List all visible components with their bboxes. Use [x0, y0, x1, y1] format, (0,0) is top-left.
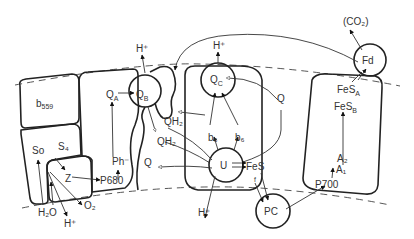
label-fesa: FeSA [337, 84, 360, 97]
label-h-bottom-mid: H⁺ [198, 207, 210, 218]
arrow-ph-to-qa [112, 102, 113, 157]
arrow-b6-right-to-qc [222, 93, 238, 125]
arrow-b6-left-to-qc [210, 93, 215, 125]
label-a1: A₁ [336, 164, 347, 175]
qb-channel [150, 67, 176, 119]
label-h-top-left: H⁺ [136, 43, 148, 54]
oec-box [21, 124, 81, 204]
label-o2: O₂ [84, 200, 96, 211]
label-u: U [220, 160, 227, 171]
arrow-qb-to-h [142, 55, 145, 73]
arrow-fd-cyclic [175, 34, 358, 70]
label-h2o: H₂O [38, 207, 57, 218]
label-b559: b559 [36, 98, 53, 110]
qb-stem [137, 107, 145, 190]
label-q-left: Q [144, 157, 152, 168]
label-s0: So [32, 145, 45, 156]
electron-transport-diagram: (CO₂) Fd FeSA FeSB A₂ A₁ P700 PC H⁺ H⁺ Q… [0, 0, 414, 239]
label-ph: Ph⁻ [112, 156, 129, 167]
label-qh2-1: QH₂ [164, 116, 183, 127]
label-z: Z [65, 173, 71, 184]
label-f: f [254, 176, 256, 183]
label-p700: P700 [315, 179, 339, 190]
label-h-bottom-left: H⁺ [64, 218, 76, 229]
arrow-qb-to-cyt [180, 112, 205, 115]
label-fes: FeS [246, 161, 265, 172]
label-co2: (CO₂) [343, 16, 369, 27]
arrow-h2o-to-s0 [38, 160, 43, 205]
label-a2: A₂ [337, 153, 348, 164]
label-q-right: Q [277, 93, 285, 104]
arrow-fd-to-co2 [350, 30, 362, 50]
label-pc: PC [264, 206, 278, 217]
arrow-z-to-p680 [72, 177, 100, 180]
label-fesb: FeSB [334, 101, 357, 114]
label-b6-right: b₆ [235, 132, 245, 143]
label-b6-left: b₆ [208, 132, 218, 143]
arrow-p700-to-a1 [332, 168, 333, 178]
qb-circle [129, 75, 161, 107]
label-s4: S₄ [58, 141, 69, 152]
label-fd: Fd [362, 55, 374, 66]
arrow-qh2-from-qb [148, 107, 155, 130]
line-q-left-to-u [160, 166, 212, 168]
label-qc: QC [210, 74, 223, 87]
label-qh2-2: QH₂ [157, 136, 176, 147]
label-qa: QA [106, 89, 119, 102]
label-h-top-mid: H⁺ [213, 40, 225, 51]
label-p680: P680 [100, 175, 124, 186]
